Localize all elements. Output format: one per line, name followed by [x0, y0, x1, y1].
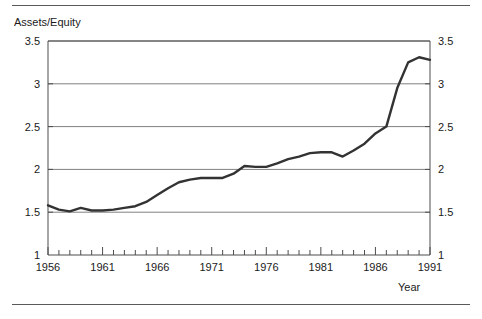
y-tick-label-right: 3: [438, 78, 444, 90]
plot-container: 111.51.5222.52.5333.53.51956196119661971…: [0, 0, 482, 319]
y-tick-label-right: 3.5: [438, 35, 453, 47]
chart-figure: Assets/Equity Year 111.51.5222.52.5333.5…: [0, 0, 482, 319]
x-tick-label: 1981: [309, 261, 333, 273]
y-tick-label-right: 2.5: [438, 121, 453, 133]
line-chart-svg: 111.51.5222.52.5333.53.51956196119661971…: [0, 0, 482, 319]
y-tick-label-left: 3.5: [25, 35, 40, 47]
x-tick-label: 1971: [199, 261, 223, 273]
x-tick-label: 1991: [418, 261, 442, 273]
x-tick-label: 1976: [254, 261, 278, 273]
y-tick-label-left: 2.5: [25, 121, 40, 133]
y-tick-label-left: 2: [34, 163, 40, 175]
x-tick-label: 1956: [36, 261, 60, 273]
x-tick-label: 1986: [363, 261, 387, 273]
x-tick-label: 1966: [145, 261, 169, 273]
x-tick-label: 1961: [90, 261, 114, 273]
data-series-line: [48, 57, 430, 211]
y-tick-label-right: 1: [438, 249, 444, 261]
y-tick-label-left: 3: [34, 78, 40, 90]
y-tick-label-left: 1: [34, 249, 40, 261]
y-tick-label-right: 2: [438, 163, 444, 175]
y-tick-label-left: 1.5: [25, 206, 40, 218]
y-tick-label-right: 1.5: [438, 206, 453, 218]
